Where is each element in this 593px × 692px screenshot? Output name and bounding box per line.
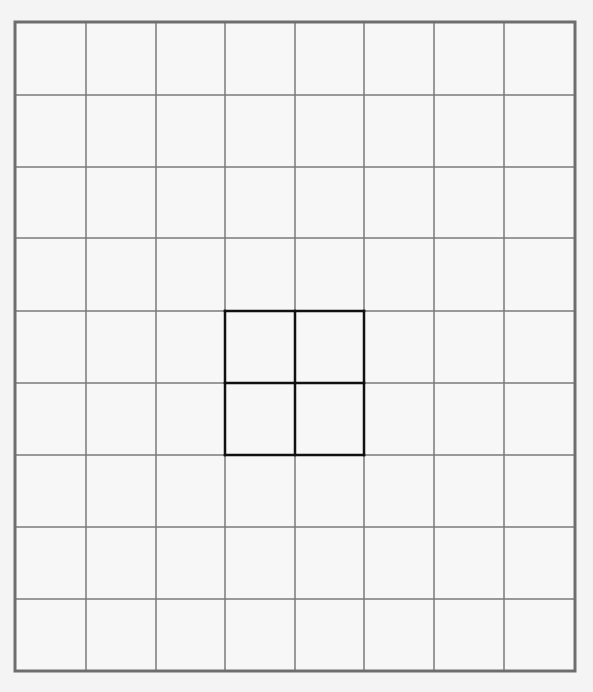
grid-svg <box>0 0 593 692</box>
grid-diagram <box>0 0 593 692</box>
